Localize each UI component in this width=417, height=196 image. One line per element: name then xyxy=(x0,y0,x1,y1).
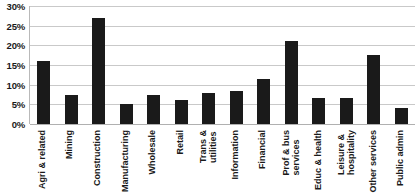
x-axis-category-label: Manufacturing xyxy=(121,130,131,192)
bar[interactable] xyxy=(230,91,243,124)
x-axis-category-label: Leisure &hospitality xyxy=(337,130,356,175)
bar[interactable] xyxy=(147,95,160,125)
x-label-slot: Manufacturing xyxy=(112,130,140,196)
bar-slot xyxy=(305,6,333,124)
bar-slot xyxy=(250,6,278,124)
bar[interactable] xyxy=(312,98,325,124)
x-axis-category-label: Trans &utilities xyxy=(199,130,218,163)
y-axis-tick-label: 5% xyxy=(12,99,25,110)
x-axis-category-label-line: hospitality xyxy=(346,130,356,175)
bar[interactable] xyxy=(120,104,133,124)
bar[interactable] xyxy=(65,95,78,125)
bar-slot xyxy=(360,6,388,124)
y-axis: 30%25%20%15%10%5%0% xyxy=(0,0,28,130)
x-axis-category-label-line: Agri & related xyxy=(37,130,47,189)
x-label-slot: Retail xyxy=(167,130,195,196)
x-label-slot: Information xyxy=(222,130,250,196)
bar[interactable] xyxy=(395,108,408,124)
x-axis-category-label-line: Other services xyxy=(368,130,378,193)
x-axis-category-label-line: Prof & bus xyxy=(280,130,290,176)
x-label-slot: Trans &utilities xyxy=(194,130,222,196)
x-label-slot: Educ & health xyxy=(305,130,333,196)
x-axis-category-label-line: Wholesale xyxy=(147,130,157,175)
x-axis-category-label-line: Financial xyxy=(258,130,268,169)
x-axis-category-label-line: Retail xyxy=(175,130,185,155)
bar[interactable] xyxy=(92,18,105,124)
bar[interactable] xyxy=(37,61,50,124)
x-axis-category-label-line: Manufacturing xyxy=(120,130,130,192)
bar[interactable] xyxy=(257,79,270,124)
x-axis-category-label: Other services xyxy=(369,130,379,193)
x-axis-category-label-line: utilities xyxy=(208,130,218,163)
bar-slot xyxy=(168,6,196,124)
x-label-slot: Other services xyxy=(360,130,388,196)
y-axis-tick-label: 25% xyxy=(7,20,25,31)
bar-chart: 30%25%20%15%10%5%0% Agri & relatedMining… xyxy=(0,0,417,196)
x-axis-category-label: Mining xyxy=(66,130,76,159)
x-axis-category-label: Public admin xyxy=(397,130,407,186)
x-axis-category-label: Prof & busservices xyxy=(281,130,300,176)
x-axis-labels: Agri & relatedMiningConstructionManufact… xyxy=(29,130,415,196)
y-axis-tick-label: 10% xyxy=(7,79,25,90)
bar-slot xyxy=(223,6,251,124)
plot-wrapper: 30%25%20%15%10%5%0% xyxy=(0,0,417,130)
x-axis-category-label: Financial xyxy=(259,130,269,169)
bar-series xyxy=(30,6,415,124)
bar-slot xyxy=(30,6,58,124)
bar-slot xyxy=(113,6,141,124)
x-axis-category-label: Wholesale xyxy=(148,130,158,175)
y-axis-tick-label: 0% xyxy=(12,119,25,130)
x-axis-category-label: Information xyxy=(231,130,241,180)
x-axis-category-label: Retail xyxy=(176,130,186,155)
bar-slot xyxy=(85,6,113,124)
bar-slot xyxy=(388,6,416,124)
bar-slot xyxy=(58,6,86,124)
x-axis-category-label: Educ & health xyxy=(314,130,324,190)
bar[interactable] xyxy=(367,55,380,124)
bar-slot xyxy=(278,6,306,124)
y-axis-tick-label: 15% xyxy=(7,60,25,71)
x-label-slot: Wholesale xyxy=(139,130,167,196)
x-label-slot: Mining xyxy=(57,130,85,196)
x-axis-category-label: Construction xyxy=(93,130,103,186)
x-label-slot: Agri & related xyxy=(29,130,57,196)
y-axis-tick-label: 20% xyxy=(7,40,25,51)
x-axis-category-label-line: Public admin xyxy=(396,130,406,186)
x-axis-category-label-line: Educ & health xyxy=(313,130,323,190)
x-label-slot: Financial xyxy=(250,130,278,196)
x-label-slot: Leisure &hospitality xyxy=(332,130,360,196)
x-axis-category-label-line: Trans & xyxy=(198,130,208,163)
x-label-slot: Public admin xyxy=(388,130,416,196)
x-axis-category-label-line: Leisure & xyxy=(336,134,346,175)
bar[interactable] xyxy=(340,98,353,124)
x-axis-category-label: Agri & related xyxy=(38,130,48,189)
x-axis-category-label-line: Information xyxy=(230,130,240,180)
bar[interactable] xyxy=(175,100,188,124)
gridline xyxy=(30,124,415,125)
y-axis-tick-label: 30% xyxy=(7,1,25,12)
bar-slot xyxy=(195,6,223,124)
x-label-slot: Construction xyxy=(84,130,112,196)
bar[interactable] xyxy=(285,41,298,124)
bar[interactable] xyxy=(202,93,215,124)
plot-area xyxy=(29,6,415,124)
bar-slot xyxy=(333,6,361,124)
x-axis-category-label-line: services xyxy=(291,130,301,176)
x-label-slot: Prof & busservices xyxy=(277,130,305,196)
x-axis-category-label-line: Construction xyxy=(92,130,102,186)
bar-slot xyxy=(140,6,168,124)
x-axis-category-label-line: Mining xyxy=(65,130,75,159)
